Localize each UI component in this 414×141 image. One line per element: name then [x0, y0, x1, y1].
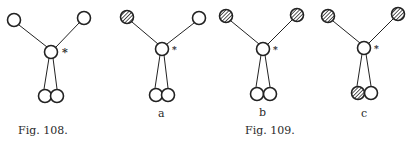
atom-center: [358, 42, 371, 55]
atom-bottom-right: [264, 88, 277, 101]
bond-line: [369, 19, 393, 43]
caption-fig-109: Fig. 109.: [245, 124, 295, 137]
bond-line: [19, 25, 47, 47]
bond-line: [268, 20, 292, 44]
atom-bottom-right: [51, 90, 64, 103]
sublabel-c: c: [361, 107, 367, 120]
atom-bottom-right: [365, 87, 378, 100]
star-marker: *: [374, 44, 379, 54]
atom-top-right: [193, 12, 206, 25]
fig-109b-diagram: * b Fig. 109.: [220, 9, 304, 138]
bond-line: [333, 21, 360, 43]
atom-bottom-left-hatched: [352, 87, 365, 100]
sublabel-a: a: [158, 107, 165, 120]
fig-109a-diagram: * a: [121, 11, 206, 121]
atom-top-right-hatched: [392, 8, 405, 21]
atom-top-right: [78, 12, 91, 25]
atom-top-left-hatched: [220, 10, 233, 23]
bond-line: [44, 58, 49, 89]
bond-line: [164, 55, 168, 88]
star-marker: *: [172, 45, 177, 55]
bond-line: [53, 58, 57, 89]
atom-top-left-hatched: [322, 10, 335, 23]
atom-top-left: [8, 14, 21, 27]
atom-bottom-left: [39, 90, 52, 103]
bond-line: [265, 55, 270, 87]
atom-bottom-left: [251, 88, 264, 101]
fig-108-diagram: * Fig. 108.: [8, 12, 91, 138]
atom-top-left-hatched: [121, 11, 134, 24]
atom-top-right-hatched: [291, 9, 304, 22]
bond-line: [132, 22, 158, 44]
bond-line: [366, 54, 371, 86]
bond-line: [231, 21, 259, 44]
atom-center: [156, 43, 169, 56]
atom-center: [257, 43, 270, 56]
star-marker: *: [273, 45, 278, 55]
caption-fig-108: Fig. 108.: [18, 124, 68, 137]
atom-bottom-left: [150, 89, 163, 102]
bond-line: [155, 55, 160, 88]
star-marker: *: [62, 46, 68, 59]
bond-line: [256, 55, 261, 87]
bond-line: [167, 23, 194, 44]
atom-center: [45, 46, 58, 59]
fig-109c-diagram: * c: [322, 8, 405, 121]
bond-line: [357, 54, 362, 86]
bond-line: [56, 23, 79, 47]
figure-canvas: * Fig. 108. * a * b Fig. 109.: [0, 0, 414, 141]
sublabel-b: b: [259, 106, 266, 119]
atom-bottom-right: [162, 89, 175, 102]
